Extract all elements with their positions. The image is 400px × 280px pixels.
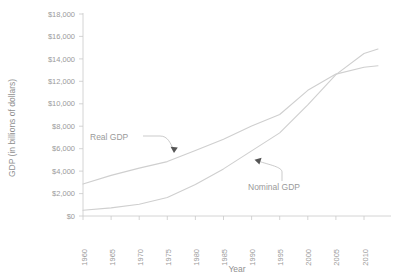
y-axis-title: GDP (in billions of dollars) <box>7 79 17 177</box>
x-tick-label: 1980 <box>192 249 201 266</box>
x-tick-label: 1965 <box>108 249 117 266</box>
x-tick-label: 1960 <box>80 249 89 266</box>
y-tick-label: $2,000 <box>52 189 75 198</box>
gdp-line-chart: $0 $2,000 $4,000 $6,000 $8,000 $10,000 $… <box>0 0 400 280</box>
y-tick-label: $12,000 <box>48 77 75 86</box>
y-tick-label: $16,000 <box>48 32 75 41</box>
x-tick-label: 2000 <box>304 249 313 266</box>
y-tick-label: $6,000 <box>52 144 75 153</box>
x-tick-label: 1990 <box>248 249 257 266</box>
x-tick-label: 1995 <box>276 249 285 266</box>
x-tick-label: 2005 <box>332 249 341 266</box>
y-tick-label: $10,000 <box>48 99 75 108</box>
x-tick-label: 2010 <box>361 249 370 266</box>
real-gdp-label: Real GDP <box>90 132 129 142</box>
x-axis-title: Year <box>228 264 245 274</box>
y-tick-label: $4,000 <box>52 167 75 176</box>
y-tick-label: $0 <box>67 212 75 221</box>
y-tick-label: $18,000 <box>48 10 75 19</box>
y-tick-label: $8,000 <box>52 122 75 131</box>
chart-background <box>0 0 400 280</box>
x-tick-label: 1975 <box>164 249 173 266</box>
y-tick-label: $14,000 <box>48 55 75 64</box>
chart-screenshot: $0 $2,000 $4,000 $6,000 $8,000 $10,000 $… <box>0 0 400 280</box>
x-tick-label: 1970 <box>136 249 145 266</box>
nominal-gdp-label: Nominal GDP <box>248 182 300 192</box>
